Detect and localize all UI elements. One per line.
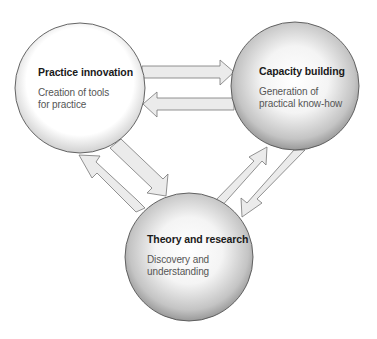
node-capacity-building: Capacity building Generation of practica… [259, 65, 345, 110]
node-description-line: practical know-how [259, 98, 345, 110]
arrow-capacity-to-practice [143, 92, 234, 117]
node-title: Capacity building [259, 65, 345, 77]
node-description-line: understanding [147, 266, 248, 278]
node-description-line: for practice [38, 99, 133, 111]
node-description-line: Generation of [259, 86, 345, 98]
node-title: Practice innovation [38, 66, 133, 78]
arrow-capacity-to-theory [241, 150, 305, 217]
node-description: Discovery and understanding [147, 254, 248, 278]
node-theory-research: Theory and research Discovery and unders… [147, 233, 248, 278]
node-description: Generation of practical know-how [259, 86, 345, 110]
node-description: Creation of tools for practice [38, 87, 133, 111]
node-practice-innovation: Practice innovation Creation of tools fo… [38, 66, 133, 111]
node-title: Theory and research [147, 233, 248, 245]
node-description-line: Discovery and [147, 254, 248, 266]
arrow-theory-to-capacity [213, 147, 267, 208]
diagram-canvas [0, 0, 377, 339]
arrow-practice-to-capacity [142, 60, 234, 85]
node-description-line: Creation of tools [38, 87, 133, 99]
